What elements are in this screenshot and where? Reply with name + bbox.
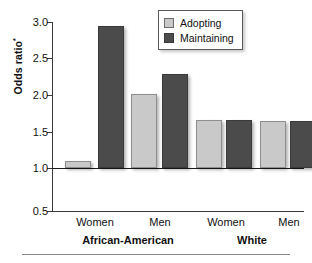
y-tick-1.0: 1.0 [52,168,53,169]
y-axis-title: Odds ratio* [12,16,25,116]
x-group-label-white: White [237,234,267,246]
bar-african-american-men-adopting [131,94,157,168]
bar-african-american-women-adopting [65,161,91,168]
legend-item-maintaining: Maintaining [164,30,234,45]
bar-white-women-adopting [196,120,222,168]
y-axis-title-text: Odds ratio [12,41,24,95]
bar-white-women-maintaining [226,120,252,168]
plot-area: 3.0 2.5 2.0 1.5 1.0 0.5 [52,22,304,212]
x-axis-line [52,211,304,212]
y-tick-2.5: 2.5 [52,58,53,59]
y-tick-label: 0.5 [33,205,48,217]
y-tick-label: 2.0 [33,89,48,101]
x-category-label-african-american-women: Women [76,216,114,228]
y-tick-label: 2.5 [33,52,48,64]
y-tick-label: 1.0 [33,162,48,174]
y-tick-1.5: 1.5 [52,132,53,133]
legend: Adopting Maintaining [158,10,243,50]
x-category-label-african-american-men: Men [149,216,170,228]
y-axis-title-footnote-mark: * [12,38,19,41]
bar-african-american-women-maintaining [98,26,124,168]
y-tick-0.5: 0.5 [52,211,53,212]
y-tick-label: 3.0 [33,16,48,28]
legend-swatch-maintaining-icon [164,33,174,43]
y-tick-2.0: 2.0 [52,95,53,96]
legend-label-maintaining: Maintaining [180,32,234,44]
y-tick-3.0: 3.0 [52,22,53,23]
reference-line-1.0 [52,168,304,169]
odds-ratio-bar-chart: Odds ratio* 3.0 2.5 2.0 1.5 1.0 0.5 [0,0,312,263]
legend-item-adopting: Adopting [164,15,234,30]
y-tick-label: 1.5 [33,126,48,138]
x-category-label-white-men: Men [278,216,299,228]
bar-white-men-adopting [260,121,286,168]
x-group-label-african-american: African-American [82,234,174,246]
legend-label-adopting: Adopting [180,17,221,29]
y-axis-line [52,22,53,212]
bar-white-men-maintaining [290,121,312,168]
footer-divider [22,254,290,255]
bar-african-american-men-maintaining [162,74,188,168]
legend-swatch-adopting-icon [164,18,174,28]
x-category-label-white-women: Women [207,216,245,228]
